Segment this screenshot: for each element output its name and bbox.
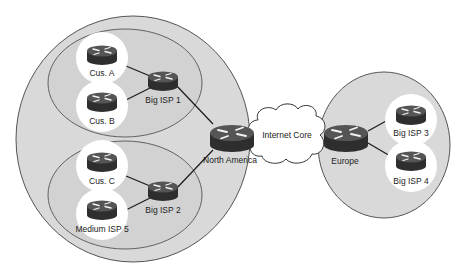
- router-icon: [148, 182, 178, 202]
- medium-isp-5-label: Medium ISP 5: [75, 224, 129, 234]
- node-cus-b[interactable]: Cus. B: [87, 93, 117, 127]
- node-north-america[interactable]: North America: [203, 125, 257, 165]
- node-cus-a[interactable]: Cus. A: [87, 46, 117, 79]
- node-cus-c[interactable]: Cus. C: [87, 153, 117, 187]
- big-isp-1-label: Big ISP 1: [145, 95, 181, 105]
- router-icon: [87, 46, 117, 66]
- cus-c-label: Cus. C: [89, 176, 115, 186]
- europe-label: Europe: [331, 156, 359, 166]
- router-icon: [148, 72, 178, 92]
- node-big-isp-3[interactable]: Big ISP 3: [393, 106, 429, 139]
- router-icon: [87, 201, 117, 221]
- big-isp-4-label: Big ISP 4: [393, 176, 429, 186]
- router-icon: [396, 152, 426, 172]
- node-big-isp-2[interactable]: Big ISP 2: [145, 182, 181, 216]
- cus-b-label: Cus. B: [89, 116, 115, 126]
- isp1-region: [48, 29, 202, 137]
- big-isp-2-label: Big ISP 2: [145, 205, 181, 215]
- big-isp-3-label: Big ISP 3: [393, 128, 429, 138]
- node-big-isp-1[interactable]: Big ISP 1: [145, 72, 181, 106]
- router-icon: [87, 153, 117, 173]
- router-icon: [396, 106, 426, 126]
- cus-a-label: Cus. A: [89, 68, 114, 78]
- north-america-label: North America: [203, 155, 257, 165]
- internet-core-label: Internet Core: [262, 130, 312, 140]
- router-icon: [87, 93, 117, 113]
- router-icon: [210, 125, 254, 152]
- network-diagram: Internet Core Cus. A Cus. B Big ISP 1 Cu…: [0, 0, 466, 276]
- router-icon: [324, 125, 368, 152]
- internet-core-cloud: Internet Core: [248, 104, 325, 163]
